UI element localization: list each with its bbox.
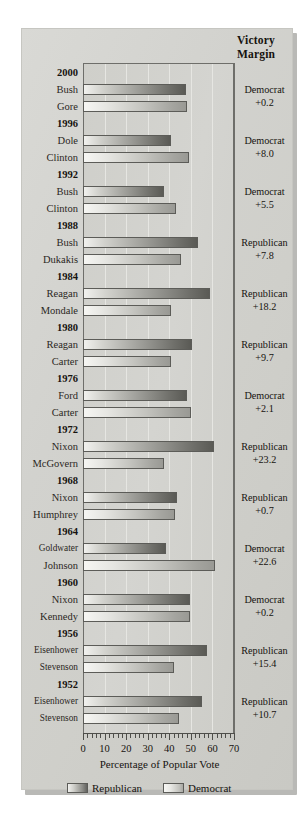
republican-bar: [83, 390, 187, 401]
victory-margin-value: +0.2: [235, 96, 294, 109]
republican-bar: [83, 186, 164, 197]
democrat-bar: [83, 713, 179, 724]
candidate-label: Reagan: [22, 338, 82, 351]
axis-tick: [109, 734, 110, 738]
axis-tick: [212, 734, 213, 740]
x-axis-title: Percentage of Popular Vote: [62, 758, 257, 770]
axis-tick: [191, 734, 192, 740]
victory-party: Democrat: [235, 134, 294, 147]
democrat-bar: [83, 203, 176, 214]
legend-item-republican: Republican: [67, 781, 142, 795]
victory-party: Republican: [235, 236, 294, 249]
axis-tick-label: 10: [99, 742, 110, 756]
victory-margin-cell: Democrat+0.2: [235, 83, 294, 109]
victory-party: Republican: [235, 491, 294, 504]
legend-item-democrat: Democrat: [163, 781, 231, 795]
year-label: 1992: [22, 168, 82, 181]
year-label: 1952: [22, 678, 82, 691]
axis-tick: [83, 734, 84, 740]
republican-bar: [83, 288, 210, 299]
democrat-bar: [83, 101, 187, 112]
candidate-label: Carter: [22, 355, 82, 368]
candidate-label: Reagan: [22, 287, 82, 300]
axis-tick: [208, 734, 209, 738]
candidate-label: Stevenson: [22, 661, 82, 674]
candidate-label: Kennedy: [22, 610, 82, 623]
victory-party: Republican: [235, 338, 294, 351]
victory-party: Democrat: [235, 83, 294, 96]
victory-margin-value: +18.2: [235, 300, 294, 313]
axis-tick: [182, 734, 183, 738]
axis-tick: [135, 734, 136, 738]
year-label: 1972: [22, 423, 82, 436]
victory-margin-value: +0.2: [235, 606, 294, 619]
axis-tick: [87, 734, 88, 738]
axis-tick: [204, 734, 205, 738]
chart-legend: Republican Democrat: [57, 781, 262, 797]
candidate-label: Nixon: [22, 491, 82, 504]
year-label: 1968: [22, 474, 82, 487]
axis-tick: [118, 734, 119, 738]
victory-margin-cell: Democrat+22.6: [235, 542, 294, 568]
candidate-label: Bush: [22, 83, 82, 96]
candidate-label: Clinton: [22, 202, 82, 215]
year-label: 1976: [22, 372, 82, 385]
axis-tick: [113, 734, 114, 738]
republican-bar: [83, 492, 177, 503]
democrat-bar: [83, 305, 171, 316]
chart-page: Victory Margin 2000BushGoreDemocrat+0.21…: [0, 0, 307, 814]
victory-margin-cell: Republican+10.7: [235, 695, 294, 721]
victory-margin-cell: Democrat+5.5: [235, 185, 294, 211]
candidate-label: Ford: [22, 389, 82, 402]
axis-tick: [100, 734, 101, 738]
axis-tick-label: 50: [186, 742, 197, 756]
democrat-bar: [83, 356, 171, 367]
axis-tick-label: 30: [142, 742, 153, 756]
axis-tick: [199, 734, 200, 738]
candidate-label: Nixon: [22, 440, 82, 453]
victory-margin-value: +22.6: [235, 555, 294, 568]
republican-bar: [83, 339, 192, 350]
axis-tick-label: 70: [229, 742, 240, 756]
axis-tick: [156, 734, 157, 738]
axis-tick: [178, 734, 179, 738]
x-axis-tick-labels: 010203040506070: [83, 742, 234, 756]
candidate-label: Bush: [22, 185, 82, 198]
victory-margin-value: +15.4: [235, 657, 294, 670]
candidate-label: Bush: [22, 236, 82, 249]
axis-tick: [105, 734, 106, 740]
axis-tick: [234, 734, 235, 740]
axis-tick: [152, 734, 153, 738]
chart-panel: Victory Margin 2000BushGoreDemocrat+0.21…: [21, 28, 293, 790]
democrat-bar: [83, 407, 191, 418]
victory-party: Democrat: [235, 593, 294, 606]
axis-tick: [187, 734, 188, 738]
candidate-label: McGovern: [22, 457, 82, 470]
republican-bar: [83, 696, 202, 707]
axis-tick: [96, 734, 97, 738]
axis-tick: [122, 734, 123, 738]
election-rows: 2000BushGoreDemocrat+0.21996DoleClintonD…: [22, 29, 294, 791]
democrat-bar: [83, 560, 215, 571]
victory-margin-cell: Republican+15.4: [235, 644, 294, 670]
republican-bar: [83, 543, 166, 554]
victory-party: Republican: [235, 440, 294, 453]
axis-tick: [143, 734, 144, 738]
democrat-swatch-icon: [163, 783, 184, 793]
victory-party: Republican: [235, 695, 294, 708]
axis-tick: [139, 734, 140, 738]
axis-tick: [130, 734, 131, 738]
republican-bar: [83, 237, 198, 248]
victory-party: Republican: [235, 644, 294, 657]
victory-margin-cell: Democrat+2.1: [235, 389, 294, 415]
victory-margin-value: +2.1: [235, 402, 294, 415]
democrat-bar: [83, 509, 175, 520]
victory-margin-cell: Republican+9.7: [235, 338, 294, 364]
axis-tick: [92, 734, 93, 738]
legend-label-democrat: Democrat: [188, 782, 231, 794]
candidate-label: Mondale: [22, 304, 82, 317]
victory-margin-cell: Republican+23.2: [235, 440, 294, 466]
victory-margin-value: +5.5: [235, 198, 294, 211]
republican-swatch-icon: [67, 783, 88, 793]
republican-bar: [83, 84, 186, 95]
